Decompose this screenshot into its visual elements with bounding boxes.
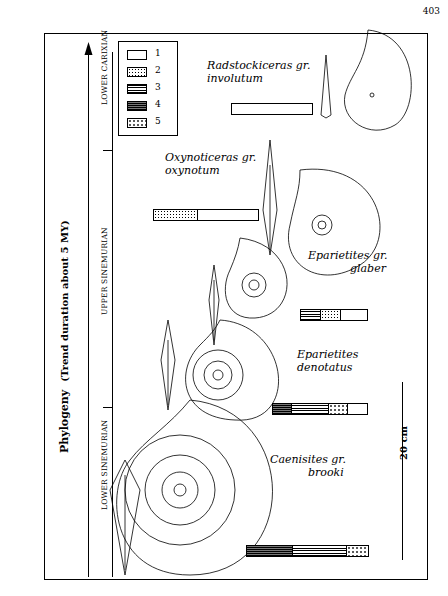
ammonite-drawings bbox=[0, 0, 448, 596]
bar-caenisites bbox=[246, 545, 369, 557]
bar-segment-blank bbox=[198, 210, 258, 220]
bar-segment-dense-lines bbox=[247, 546, 293, 556]
bar-segment-lines bbox=[293, 546, 347, 556]
species-label-radstockiceras: Radstockiceras gr. involutum bbox=[207, 59, 310, 85]
species-name-line2: denotatus bbox=[297, 361, 358, 374]
species-name-line1: Eparietites bbox=[297, 348, 358, 361]
species-name-line1: Oxynoticeras gr. bbox=[165, 151, 256, 164]
bar-segment-sparse-dots bbox=[329, 404, 348, 414]
species-label-eparietites-glaber: Eparietites gr. glaber bbox=[308, 249, 388, 275]
bar-segment-lines bbox=[292, 404, 330, 414]
species-label-oxynoticeras: Oxynoticeras gr. oxynotum bbox=[165, 151, 256, 177]
species-name-line2: involutum bbox=[207, 72, 310, 85]
bar-oxynoticeras bbox=[153, 209, 259, 221]
bar-eparietites-glaber bbox=[300, 309, 368, 321]
species-name-line1: Radstockiceras gr. bbox=[207, 59, 310, 72]
ammonite-eparietites-glaber-icon bbox=[209, 238, 287, 345]
ammonite-eparietites-denotatus-icon bbox=[161, 320, 279, 420]
species-name-line2: glaber bbox=[308, 262, 388, 275]
ammonite-radstockiceras-icon bbox=[321, 30, 411, 130]
bar-segment-lines bbox=[301, 310, 321, 320]
bar-eparietites-denotatus bbox=[272, 403, 368, 415]
bar-segment-fine-dots bbox=[321, 310, 341, 320]
scale-bar bbox=[402, 382, 403, 560]
species-label-eparietites-denotatus: Eparietites denotatus bbox=[297, 348, 358, 374]
bar-radstockiceras bbox=[231, 103, 313, 115]
bar-segment-dense-lines bbox=[273, 404, 292, 414]
species-name-line1: Caenisites gr. bbox=[270, 453, 346, 466]
bar-segment-blank bbox=[341, 310, 367, 320]
bar-segment-blank bbox=[348, 404, 367, 414]
species-label-caenisites: Caenisites gr. brooki bbox=[270, 453, 346, 479]
scale-label: 20 cm bbox=[398, 426, 409, 460]
species-name-line1: Eparietites gr. bbox=[308, 249, 388, 262]
bar-segment-fine-dots bbox=[154, 210, 198, 220]
bar-segment-blank bbox=[232, 104, 312, 114]
species-name-line2: brooki bbox=[270, 466, 346, 479]
species-name-line2: oxynotum bbox=[165, 164, 256, 177]
bar-segment-sparse-dots bbox=[347, 546, 368, 556]
